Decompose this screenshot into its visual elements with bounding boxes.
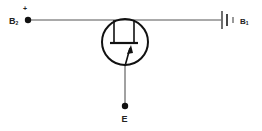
battery-icon	[222, 11, 233, 29]
b2-label: B2	[9, 16, 19, 26]
emitter-arrow-icon	[127, 45, 133, 54]
b1-label: B1	[240, 17, 249, 26]
ujt-circuit-diagram: + B2 E B1	[0, 0, 262, 131]
b2-terminal-dot	[25, 17, 31, 23]
b2-polarity-label: +	[23, 5, 27, 12]
emitter-label: E	[122, 114, 128, 124]
emitter-terminal-dot	[122, 103, 128, 109]
